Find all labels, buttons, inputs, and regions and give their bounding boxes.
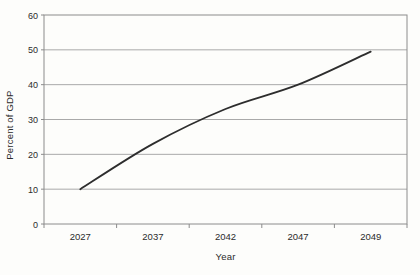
y-axis-title: Percent of GDP xyxy=(4,85,16,165)
y-tick-label-0: 0 xyxy=(33,220,38,230)
y-tick-label-10: 10 xyxy=(28,185,38,195)
x-tick-label-2047: 2047 xyxy=(288,231,309,242)
x-tick-label-2042: 2042 xyxy=(215,231,236,242)
y-tick-label-50: 50 xyxy=(28,45,38,55)
y-tick-label-30: 30 xyxy=(28,115,38,125)
y-tick-label-40: 40 xyxy=(28,80,38,90)
x-tick-label-2049: 2049 xyxy=(360,231,381,242)
x-tick-label-2027: 2027 xyxy=(70,231,91,242)
x-axis-title: Year xyxy=(44,251,407,262)
line-chart-figure: 010203040506020272037204220472049 Percen… xyxy=(0,0,420,275)
y-tick-label-60: 60 xyxy=(28,11,38,21)
data-line-series-0 xyxy=(80,52,370,190)
x-tick-label-2037: 2037 xyxy=(142,231,163,242)
plot-area: 010203040506020272037204220472049 xyxy=(0,0,420,275)
y-tick-label-20: 20 xyxy=(28,150,38,160)
